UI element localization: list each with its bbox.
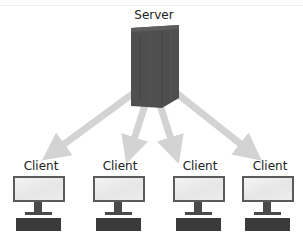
keyboard-icon bbox=[176, 218, 221, 231]
client-computer-1 bbox=[13, 176, 65, 236]
arrow-to-client-2 bbox=[130, 105, 145, 152]
client-computer-3 bbox=[173, 176, 225, 236]
monitor-icon bbox=[242, 176, 294, 202]
server-tower-icon bbox=[131, 25, 179, 108]
monitor-base bbox=[105, 212, 132, 215]
monitor-icon bbox=[173, 176, 225, 202]
client-label-3: Client bbox=[170, 159, 230, 173]
monitor-icon bbox=[13, 176, 65, 202]
client-computer-4 bbox=[242, 176, 294, 236]
keyboard-icon bbox=[245, 218, 290, 231]
server-label: Server bbox=[124, 8, 184, 22]
client-label-4: Client bbox=[240, 159, 300, 173]
keyboard-icon bbox=[96, 218, 141, 231]
monitor-base bbox=[185, 212, 212, 215]
monitor-base bbox=[254, 212, 281, 215]
monitor-base bbox=[25, 212, 52, 215]
arrow-to-client-3 bbox=[160, 105, 175, 152]
arrow-to-client-1 bbox=[52, 92, 135, 153]
monitor-icon bbox=[93, 176, 145, 202]
client-label-1: Client bbox=[11, 159, 71, 173]
keyboard-icon bbox=[16, 218, 61, 231]
client-label-2: Client bbox=[90, 159, 150, 173]
arrow-to-client-4 bbox=[175, 92, 252, 153]
client-computer-2 bbox=[93, 176, 145, 236]
